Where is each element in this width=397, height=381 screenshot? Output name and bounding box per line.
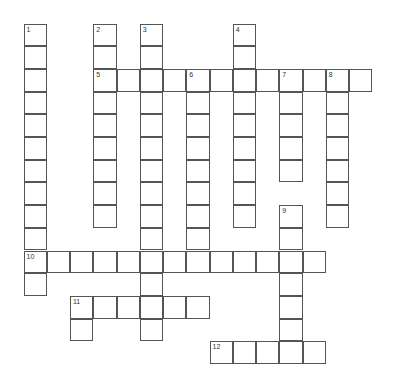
crossword-cell[interactable]: [233, 114, 256, 137]
crossword-cell[interactable]: 7: [279, 69, 302, 92]
crossword-cell[interactable]: 4: [233, 24, 256, 47]
crossword-cell[interactable]: [140, 137, 163, 160]
crossword-cell[interactable]: 9: [279, 205, 302, 228]
crossword-cell[interactable]: [279, 228, 302, 251]
crossword-cell[interactable]: [256, 69, 279, 92]
crossword-cell[interactable]: [326, 182, 349, 205]
crossword-cell[interactable]: [279, 319, 302, 342]
crossword-cell[interactable]: [326, 92, 349, 115]
crossword-cell[interactable]: [117, 296, 140, 319]
crossword-cell[interactable]: 10: [24, 251, 47, 274]
crossword-cell[interactable]: [326, 205, 349, 228]
crossword-cell[interactable]: [233, 46, 256, 69]
crossword-cell[interactable]: [279, 296, 302, 319]
crossword-cell[interactable]: 3: [140, 24, 163, 47]
crossword-cell[interactable]: [93, 114, 116, 137]
crossword-cell[interactable]: [186, 114, 209, 137]
crossword-cell[interactable]: [163, 69, 186, 92]
crossword-cell[interactable]: [233, 182, 256, 205]
crossword-cell[interactable]: [140, 69, 163, 92]
crossword-cell[interactable]: [140, 251, 163, 274]
crossword-cell[interactable]: [279, 137, 302, 160]
crossword-cell[interactable]: [93, 205, 116, 228]
crossword-cell[interactable]: [24, 205, 47, 228]
crossword-cell[interactable]: [233, 205, 256, 228]
crossword-cell[interactable]: [186, 228, 209, 251]
crossword-cell[interactable]: [303, 251, 326, 274]
crossword-cell[interactable]: [70, 251, 93, 274]
crossword-cell[interactable]: [186, 137, 209, 160]
crossword-cell[interactable]: [93, 182, 116, 205]
crossword-cell[interactable]: [186, 160, 209, 183]
crossword-cell[interactable]: [140, 319, 163, 342]
crossword-cell[interactable]: [24, 273, 47, 296]
crossword-cell[interactable]: [24, 137, 47, 160]
crossword-cell[interactable]: [233, 160, 256, 183]
crossword-cell[interactable]: [163, 251, 186, 274]
crossword-cell[interactable]: [140, 205, 163, 228]
crossword-cell[interactable]: [233, 341, 256, 364]
crossword-cell[interactable]: [93, 46, 116, 69]
crossword-cell[interactable]: [24, 69, 47, 92]
crossword-cell[interactable]: [24, 92, 47, 115]
crossword-cell[interactable]: [24, 182, 47, 205]
crossword-cell[interactable]: [326, 137, 349, 160]
crossword-cell[interactable]: [24, 160, 47, 183]
crossword-cell[interactable]: 6: [186, 69, 209, 92]
crossword-cell[interactable]: [93, 137, 116, 160]
crossword-cell[interactable]: [256, 341, 279, 364]
crossword-cell[interactable]: [210, 69, 233, 92]
crossword-cell[interactable]: [93, 296, 116, 319]
crossword-cell[interactable]: [70, 319, 93, 342]
crossword-cell[interactable]: [93, 251, 116, 274]
crossword-cell[interactable]: [186, 251, 209, 274]
crossword-cell[interactable]: [303, 69, 326, 92]
crossword-cell[interactable]: [279, 160, 302, 183]
crossword-cell[interactable]: [47, 251, 70, 274]
crossword-cell[interactable]: 1: [24, 24, 47, 47]
crossword-cell[interactable]: 2: [93, 24, 116, 47]
crossword-cell[interactable]: [326, 114, 349, 137]
crossword-cell[interactable]: [186, 92, 209, 115]
crossword-cell[interactable]: [233, 69, 256, 92]
crossword-cell[interactable]: [117, 69, 140, 92]
crossword-cell[interactable]: [140, 228, 163, 251]
crossword-cell[interactable]: [186, 205, 209, 228]
crossword-cell[interactable]: [140, 46, 163, 69]
crossword-cell[interactable]: [233, 137, 256, 160]
crossword-cell[interactable]: [349, 69, 372, 92]
crossword-cell[interactable]: [140, 273, 163, 296]
crossword-cell[interactable]: [233, 92, 256, 115]
crossword-cell[interactable]: [256, 251, 279, 274]
crossword-cell[interactable]: [279, 114, 302, 137]
crossword-cell[interactable]: [24, 228, 47, 251]
crossword-cell[interactable]: [279, 341, 302, 364]
crossword-cell[interactable]: [186, 296, 209, 319]
crossword-cell[interactable]: 8: [326, 69, 349, 92]
crossword-cell[interactable]: [117, 251, 140, 274]
crossword-cell[interactable]: [186, 182, 209, 205]
crossword-cell[interactable]: [163, 296, 186, 319]
crossword-cell[interactable]: [24, 46, 47, 69]
crossword-cell[interactable]: [210, 251, 233, 274]
crossword-cell[interactable]: [140, 182, 163, 205]
crossword-cell[interactable]: [303, 341, 326, 364]
crossword-cell[interactable]: [24, 114, 47, 137]
crossword-cell[interactable]: [93, 160, 116, 183]
crossword-cell[interactable]: [140, 160, 163, 183]
crossword-cell[interactable]: [279, 92, 302, 115]
crossword-cell[interactable]: 11: [70, 296, 93, 319]
crossword-cell[interactable]: [140, 92, 163, 115]
crossword-cell[interactable]: [140, 296, 163, 319]
clue-number: 12: [213, 343, 221, 350]
crossword-cell[interactable]: [233, 251, 256, 274]
crossword-cell[interactable]: [279, 273, 302, 296]
clue-number: 2: [96, 26, 100, 33]
crossword-cell[interactable]: 12: [210, 341, 233, 364]
clue-number: 1: [27, 26, 31, 33]
crossword-cell[interactable]: [140, 114, 163, 137]
crossword-cell[interactable]: [93, 92, 116, 115]
crossword-cell[interactable]: 5: [93, 69, 116, 92]
crossword-cell[interactable]: [326, 160, 349, 183]
crossword-cell[interactable]: [279, 251, 302, 274]
